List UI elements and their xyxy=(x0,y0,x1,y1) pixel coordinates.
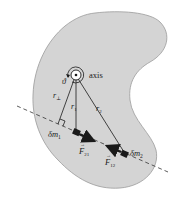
rigid-body-torque-diagram: axis ϑ r⊥ r1 r2 δm1 δm2 → F21 → F12 xyxy=(0,0,191,199)
axis-label: axis xyxy=(89,70,103,80)
